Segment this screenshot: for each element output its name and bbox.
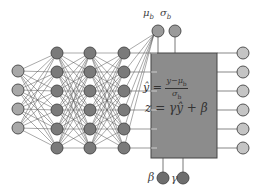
hidden-node (51, 66, 63, 78)
beta-node (157, 172, 169, 184)
output-node (237, 47, 249, 59)
hidden-node (118, 123, 130, 135)
input-node (12, 122, 24, 134)
hidden-node (51, 47, 63, 59)
hidden-node (84, 104, 96, 116)
mu-node (152, 25, 164, 37)
output-node (237, 142, 249, 154)
input-node (12, 103, 24, 115)
hidden-node (84, 47, 96, 59)
output-node (237, 85, 249, 97)
hidden-node (118, 104, 130, 116)
hidden-node (118, 85, 130, 97)
hidden-node (84, 123, 96, 135)
hidden-node (51, 142, 63, 154)
output-node (237, 123, 249, 135)
hidden-node (51, 123, 63, 135)
hidden-node (118, 66, 130, 78)
hidden-node (84, 142, 96, 154)
normalize-fraction: y−μb σb (165, 76, 187, 100)
beta-label: β (148, 171, 154, 184)
gamma-node (177, 172, 189, 184)
sigma-node (169, 25, 181, 37)
dense-edge (18, 53, 57, 109)
sigma-label: σb (160, 7, 171, 21)
input-node (12, 65, 24, 77)
output-node (237, 66, 249, 78)
input-node (12, 84, 24, 96)
hidden-node (118, 142, 130, 154)
hidden-node (118, 47, 130, 59)
gamma-label: γ (171, 172, 178, 185)
hidden-node (51, 104, 63, 116)
hidden-node (51, 85, 63, 97)
hidden-node (84, 66, 96, 78)
batchnorm-diagram (0, 0, 263, 196)
output-node (237, 104, 249, 116)
hidden-node (84, 85, 96, 97)
y-hat-symbol: ŷ (143, 81, 149, 94)
scale-shift-formula: z = γŷ + β (145, 101, 208, 115)
dense-edge (18, 72, 57, 128)
mu-label: μb (143, 7, 154, 21)
normalize-formula: ŷ = y−μb σb (143, 76, 188, 100)
